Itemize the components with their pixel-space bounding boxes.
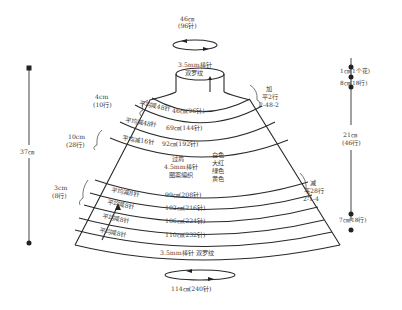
bottom-needle-pattern: 3.5mm棒针 双罗纹 xyxy=(160,249,214,257)
lower-band-4-size: 110㎝(232针) xyxy=(165,231,205,239)
left-seg2-len: 10cm xyxy=(68,133,85,141)
lower-band-3-size: 106㎝(224针) xyxy=(165,217,205,225)
bottom-circumference: 114㎝(240针) xyxy=(171,285,211,293)
right-middle-rows: (46行) xyxy=(342,139,361,147)
top-stitches: (96针) xyxy=(178,22,197,30)
left-seg3-rows: (8行) xyxy=(52,192,67,200)
increase-formula: 2-48-2 xyxy=(259,101,279,109)
pattern-line2: 4.5mm棒针 xyxy=(164,163,198,171)
left-seg1-rows: (10行) xyxy=(93,101,112,109)
right-seg2: 8㎝(18行) xyxy=(340,80,368,88)
top-pattern: 双罗纹 xyxy=(185,69,203,77)
increase-flat: 平2行 xyxy=(262,93,278,101)
right-bottom-seg: 7㎝(18行) xyxy=(339,217,367,225)
color-2: 大红 xyxy=(212,159,224,167)
pattern-line1: 过肩 xyxy=(172,155,184,163)
lower-band-1-size: 99㎝(208针) xyxy=(165,191,202,199)
yoke-band-2-size: 69㎝(144针) xyxy=(166,124,203,132)
left-seg2-rows: (28行) xyxy=(66,141,85,149)
top-needle: 3.5mm棒针 xyxy=(178,61,212,69)
increase-title: 加 xyxy=(266,85,272,93)
decrease-flat: 平28行 xyxy=(304,187,324,195)
left-total: 37㎝ xyxy=(20,148,34,156)
pattern-line3: 图案编织 xyxy=(169,171,193,179)
bottom-rotation-ellipse xyxy=(165,270,235,280)
left-seg1-len: 4cm xyxy=(95,93,108,101)
decrease-title: 减 xyxy=(310,179,316,187)
left-seg3-len: 3cm xyxy=(54,184,67,192)
right-middle-len: 21㎝ xyxy=(343,131,357,139)
yoke-band-3-size: 92㎝(192针) xyxy=(162,140,199,148)
yoke-band-1-size: 46㎝(96针) xyxy=(172,107,205,115)
color-4: 黄色 xyxy=(212,175,224,183)
yoke-diagram xyxy=(0,0,402,310)
color-1: 白色 xyxy=(212,151,224,159)
lower-band-2-size: 102㎝(216针) xyxy=(165,204,205,212)
color-3: 绿色 xyxy=(212,167,224,175)
right-top-seg: 1㎝(1个花) xyxy=(340,68,370,76)
decrease-formula: 2-1-4 xyxy=(303,195,319,203)
top-rotation-ellipse xyxy=(173,40,217,50)
